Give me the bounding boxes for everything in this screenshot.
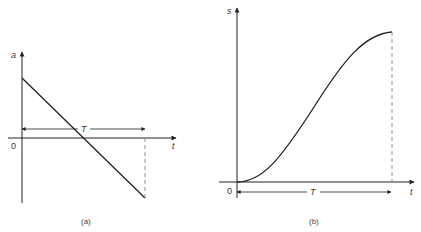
b-x-axis-label: t: [410, 187, 413, 197]
a-origin-label: 0: [11, 141, 16, 151]
figure-b: s t 0 T (b): [219, 6, 414, 226]
diagram-canvas: a t 0 T (a) s t 0 T (b): [0, 0, 421, 232]
b-y-axis-label: s: [227, 6, 232, 16]
a-x-axis-label: t: [172, 141, 175, 151]
b-interval-label: T: [310, 187, 317, 197]
a-caption: (a): [81, 217, 91, 226]
b-displacement-curve: [237, 32, 392, 182]
b-origin-label: 0: [227, 186, 232, 196]
figure-a: a t 0 T (a): [8, 50, 176, 226]
a-interval-label: T: [81, 124, 88, 134]
a-y-axis-label: a: [11, 50, 16, 60]
b-caption: (b): [309, 217, 319, 226]
